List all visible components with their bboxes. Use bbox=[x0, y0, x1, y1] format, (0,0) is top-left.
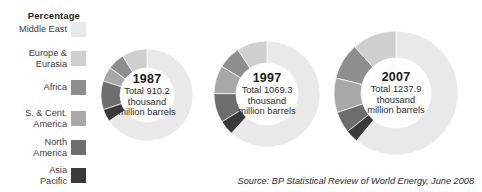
legend-item-label: Africa bbox=[44, 82, 68, 93]
legend-color-swatch bbox=[71, 111, 86, 126]
legend-item-north-america[interactable]: North America bbox=[33, 137, 86, 158]
legend-item-asia-pacific[interactable]: Asia Pacific bbox=[40, 165, 86, 186]
source-note: Source: BP Statistical Review of World E… bbox=[238, 176, 474, 186]
legend-item-label: North America bbox=[33, 137, 67, 158]
legend-color-swatch bbox=[71, 80, 86, 95]
legend-color-swatch bbox=[71, 51, 86, 66]
donut-rings bbox=[212, 39, 322, 149]
legend-item-s-cent-america[interactable]: S. & Cent. America bbox=[25, 108, 86, 129]
chart-canvas: Percentage Middle EastEurope & EurasiaAf… bbox=[0, 0, 482, 192]
legend-color-swatch bbox=[71, 168, 86, 183]
legend-item-middle-east[interactable]: Middle East bbox=[19, 22, 86, 37]
legend-color-swatch bbox=[71, 140, 86, 155]
donut-chart-1987: 1987Total 910.2thousandmillion barrels bbox=[99, 47, 195, 143]
legend-item-label: S. & Cent. America bbox=[25, 108, 67, 129]
legend-item-label: Middle East bbox=[19, 24, 67, 35]
legend-item-africa[interactable]: Africa bbox=[44, 80, 87, 95]
legend-item-europe-eurasia[interactable]: Europe & Eurasia bbox=[29, 48, 86, 69]
donut-rings bbox=[332, 29, 460, 157]
legend-color-swatch bbox=[71, 22, 86, 37]
legend-item-label: Europe & Eurasia bbox=[29, 48, 67, 69]
legend: Percentage Middle EastEurope & EurasiaAf… bbox=[0, 0, 86, 192]
donut-rings bbox=[99, 47, 195, 143]
legend-title: Percentage bbox=[28, 10, 80, 21]
donut-chart-2007: 2007Total 1237.9thousandmillion barrels bbox=[332, 29, 460, 157]
legend-item-label: Asia Pacific bbox=[40, 165, 67, 186]
donut-chart-1997: 1997Total 1069.3thousandmillion barrels bbox=[212, 39, 322, 149]
